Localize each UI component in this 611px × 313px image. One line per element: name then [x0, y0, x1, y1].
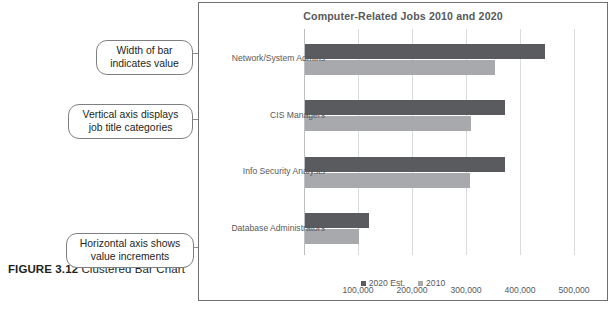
callout-width-of-bar: Width of bar indicates value [96, 40, 193, 75]
bar-2010-CISManagers[interactable] [305, 116, 471, 131]
legend-swatch [418, 281, 423, 286]
category-label-InfoSecurityAnalysts: Info Security Analysts [175, 166, 325, 176]
bar-2010-NetworkSystemAdmins[interactable] [305, 60, 495, 75]
chart-container: Computer-Related Jobs 2010 and 2020 100,… [198, 2, 608, 301]
legend-label: 2020 Est. [369, 278, 405, 288]
category-label-NetworkSystemAdmins: Network/System Admins [175, 53, 325, 63]
figure-number: FIGURE 3.12 [8, 263, 78, 275]
legend-item-2020Est[interactable]: 2020 Est. [361, 278, 405, 288]
bar-2010-InfoSecurityAnalysts[interactable] [305, 173, 470, 188]
plot-area: 100,000200,000300,000400,000500,000 [304, 29, 579, 255]
bar-2020Est-NetworkSystemAdmins[interactable] [305, 44, 545, 59]
callout-horizontal-axis: Horizontal axis shows value increments [66, 233, 194, 268]
legend-swatch [361, 281, 366, 286]
category-label-CISManagers: CIS Managers [175, 110, 325, 120]
category-label-DatabaseAdministrators: Database Administrators [175, 223, 325, 233]
callout-vertical-axis: Vertical axis displays job title categor… [68, 104, 193, 139]
bar-group [305, 100, 579, 131]
bar-group [305, 44, 579, 75]
chart-legend: 2020 Est.2010 [199, 278, 607, 288]
legend-label: 2010 [426, 278, 445, 288]
bar-group [305, 157, 579, 188]
legend-item-2010[interactable]: 2010 [418, 278, 445, 288]
bar-2020Est-InfoSecurityAnalysts[interactable] [305, 157, 505, 172]
bar-2020Est-CISManagers[interactable] [305, 100, 505, 115]
bar-group [305, 213, 579, 244]
chart-title: Computer-Related Jobs 2010 and 2020 [199, 10, 607, 22]
